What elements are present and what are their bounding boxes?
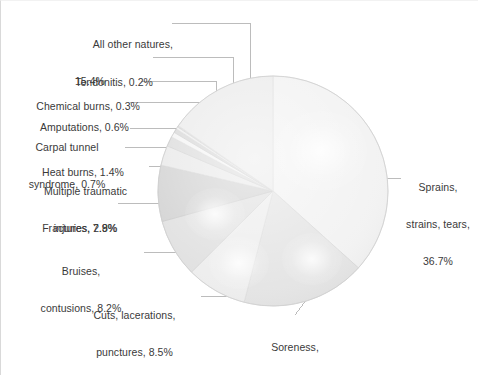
pie-label-cuts-line2: punctures, 8.5% <box>69 346 200 358</box>
pie-label-sprains-line3: 36.7% <box>400 255 476 267</box>
pie-label-soreness-line1: Soreness, <box>241 341 349 353</box>
pie-label-sprains-strains-tears: Sprains, strains, tears, 36.7% <box>400 156 476 292</box>
pie-label-cuts-line1: Cuts, lacerations, <box>69 309 200 321</box>
pie-label-all-other-natures-line1: All other natures, <box>7 38 173 50</box>
pie-label-sprains-line2: strains, tears, <box>400 218 476 230</box>
pie-label-fractures-line1: Fractures, 7.9% <box>5 222 117 234</box>
pie-label-bruises-line1: Bruises, <box>19 265 143 277</box>
pie-label-cuts-lacerations-punctures: Cuts, lacerations, punctures, 8.5% <box>69 284 200 375</box>
pie-gloss-overlay <box>158 76 388 306</box>
pie-label-multiple-traumatic-line1: Multiple traumatic <box>23 185 148 197</box>
pie-chart-figure: All other natures, 15.4% Tendonitis, 0.2… <box>0 0 478 375</box>
pie-label-sprains-line1: Sprains, <box>400 181 476 193</box>
pie-label-soreness-pain: Soreness, pain, 17.4% <box>241 316 349 375</box>
